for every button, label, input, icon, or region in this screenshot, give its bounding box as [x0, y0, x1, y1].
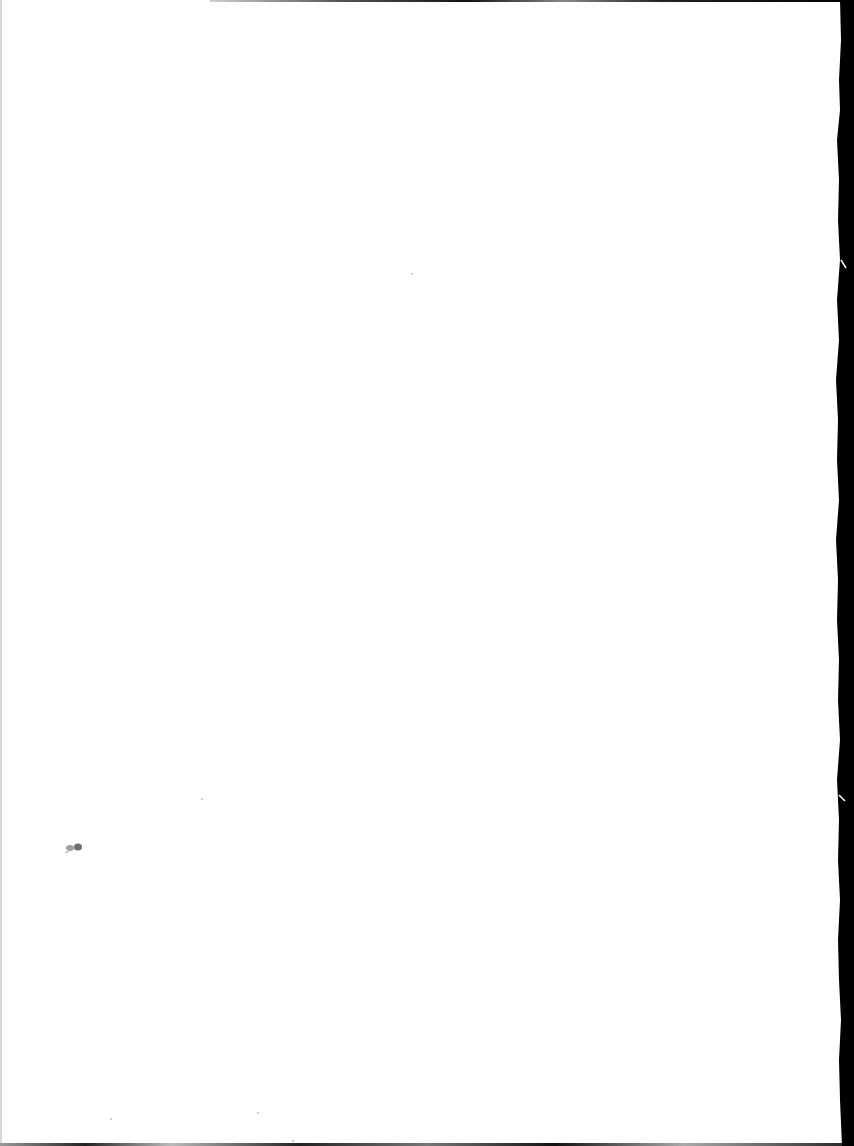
scanned-blank-page — [0, 0, 854, 1146]
torn-right-edge — [828, 0, 854, 1146]
ink-smudge — [64, 842, 84, 854]
left-scan-edge — [0, 0, 2, 1146]
dust-speck — [411, 273, 413, 275]
dust-speck — [110, 1118, 112, 1120]
dust-speck — [257, 1112, 259, 1114]
dust-speck — [292, 1140, 294, 1142]
top-scan-edge — [210, 0, 854, 2]
dust-speck — [201, 798, 203, 800]
